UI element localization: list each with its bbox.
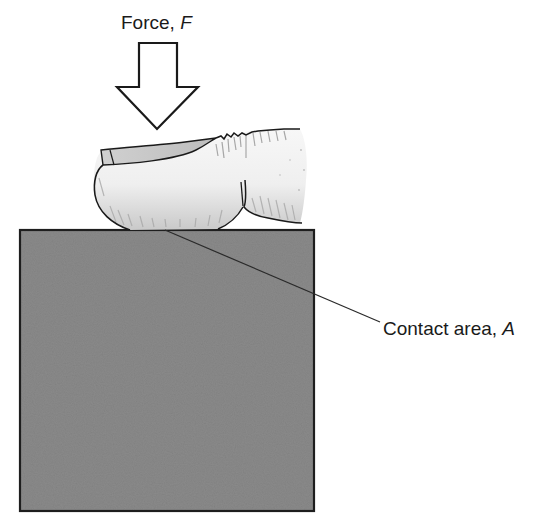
block [20, 230, 314, 511]
finger-illustration [94, 129, 307, 230]
force-label: Force, F [121, 13, 192, 32]
diagram-illustration [0, 0, 545, 532]
force-arrow-icon [117, 43, 198, 129]
force-label-text: Force, [121, 12, 180, 33]
contact-area-variable: A [502, 318, 515, 339]
contact-area-label: Contact area, A [383, 319, 515, 338]
contact-area-label-text: Contact area, [383, 318, 502, 339]
diagram-canvas: Force, F Contact area, A [0, 0, 545, 532]
force-variable: F [180, 12, 192, 33]
